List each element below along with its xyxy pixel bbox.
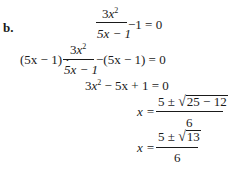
equation-step-3: 3x2 − 5x + 1 = 0 xyxy=(85,79,169,92)
fraction-bar xyxy=(63,59,94,60)
fraction-numerator: 5 ± √13 xyxy=(158,130,201,143)
fraction-numerator: 3x2 xyxy=(102,7,118,20)
fraction-denominator: 6 xyxy=(174,151,181,164)
fraction-bar xyxy=(96,22,127,23)
equation-rest: −(5x − 1) = 0 xyxy=(96,53,166,66)
fraction-denominator: 5x − 1 xyxy=(97,27,131,40)
equation-rest: −1 = 0 xyxy=(128,18,162,31)
fraction-bar xyxy=(156,147,198,148)
fraction-numerator: 5 ± √25 − 12 xyxy=(158,95,228,108)
equation-lhs: x = xyxy=(137,105,155,118)
fraction-bar xyxy=(156,111,223,112)
problem-label: b. xyxy=(3,20,13,36)
fraction-denominator: 6 xyxy=(186,116,193,129)
fraction-denominator: 5x − 1 xyxy=(64,63,98,76)
sqrt-icon: √ xyxy=(178,130,186,144)
equation-lhs: x = xyxy=(137,141,155,154)
fraction-numerator: 3x2 xyxy=(70,43,86,56)
sqrt-icon: √ xyxy=(178,95,186,109)
